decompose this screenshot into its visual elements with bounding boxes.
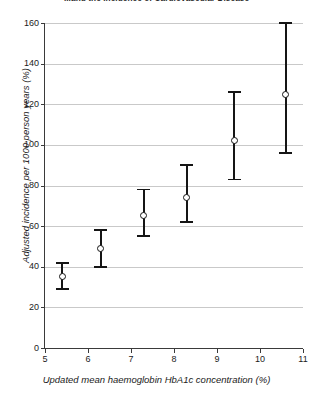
y-axis-tick-label: 60 — [5, 222, 39, 231]
data-point-marker — [231, 137, 238, 144]
x-axis-tick — [303, 349, 304, 353]
y-axis-tick — [41, 64, 45, 65]
x-axis-tick — [174, 349, 175, 353]
y-axis-tick — [41, 23, 45, 24]
error-bar-cap — [56, 262, 69, 264]
x-axis-tick-label: 10 — [250, 354, 270, 364]
x-axis-label: Updated mean haemoglobin HbA1c concentra… — [0, 374, 313, 385]
x-axis-tick-label: 5 — [35, 354, 55, 364]
gridline-horizontal — [45, 186, 303, 187]
y-axis-tick-label: 40 — [5, 262, 39, 271]
data-point-marker — [282, 91, 289, 98]
x-axis-tick-label: 11 — [293, 354, 313, 364]
x-axis-tick-label: 9 — [207, 354, 227, 364]
y-axis-tick — [41, 226, 45, 227]
error-bar — [285, 23, 287, 153]
y-axis-tick-label: 80 — [5, 181, 39, 190]
error-bar-cap — [137, 235, 150, 237]
chart-figure: ...and the Incidence of Cardiovascular D… — [0, 0, 313, 396]
error-bar-cap — [137, 189, 150, 191]
y-axis-tick-label: 0 — [5, 344, 39, 353]
error-bar-cap — [279, 152, 292, 154]
error-bar-cap — [180, 164, 193, 166]
plot-area — [45, 23, 303, 348]
x-axis-tick — [260, 349, 261, 353]
error-bar-cap — [228, 179, 241, 181]
y-axis-tick — [41, 104, 45, 105]
x-axis-tick-label: 8 — [164, 354, 184, 364]
y-axis-tick — [41, 267, 45, 268]
y-axis-tick — [41, 186, 45, 187]
gridline-horizontal — [45, 64, 303, 65]
gridline-horizontal — [45, 145, 303, 146]
gridline-horizontal — [45, 104, 303, 105]
y-axis-tick-label: 20 — [5, 303, 39, 312]
error-bar-cap — [228, 91, 241, 93]
gridline-horizontal — [45, 267, 303, 268]
error-bar-cap — [180, 221, 193, 223]
x-axis-tick — [131, 349, 132, 353]
gridline-horizontal — [45, 23, 303, 24]
y-axis-tick-label: 160 — [5, 19, 39, 28]
x-axis-tick-label: 7 — [121, 354, 141, 364]
error-bar — [233, 92, 235, 179]
x-axis-tick-label: 6 — [78, 354, 98, 364]
y-axis-label: Adjusted incidence per 1000 person years… — [20, 46, 31, 286]
gridline-horizontal — [45, 307, 303, 308]
y-axis-tick — [41, 307, 45, 308]
y-axis-tick — [41, 145, 45, 146]
x-axis-tick — [217, 349, 218, 353]
gridline-horizontal — [45, 226, 303, 227]
x-axis-tick — [88, 349, 89, 353]
chart-title: ...and the Incidence of Cardiovascular D… — [0, 0, 313, 3]
error-bar-cap — [56, 288, 69, 290]
y-axis-tick-label: 140 — [5, 59, 39, 68]
y-axis-tick-label: 100 — [5, 140, 39, 149]
error-bar-cap — [94, 229, 107, 231]
error-bar-cap — [279, 22, 292, 24]
x-axis-tick — [45, 349, 46, 353]
y-axis-tick-label: 120 — [5, 100, 39, 109]
error-bar-cap — [94, 266, 107, 268]
